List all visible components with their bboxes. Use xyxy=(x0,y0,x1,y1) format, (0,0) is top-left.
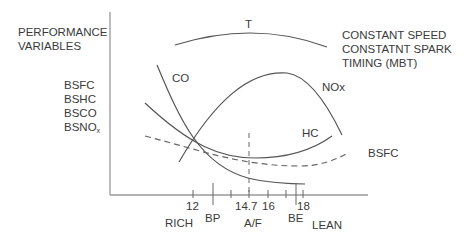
marker-be: BE xyxy=(288,211,303,225)
label-co: CO xyxy=(172,71,189,85)
y-var-bsnox: BSNOx xyxy=(64,120,100,138)
curve-bsfc xyxy=(145,136,346,166)
y-var-bshc: BSHC xyxy=(64,92,100,106)
label-hc: HC xyxy=(302,126,319,140)
conditions-title: CONSTANT SPEED CONSTATNT SPARK TIMING (M… xyxy=(342,28,452,70)
title-right-line-3: TIMING (MBT) xyxy=(342,56,452,70)
label-bsfc: BSFC xyxy=(368,146,399,160)
tick-16: 16 xyxy=(262,199,275,213)
performance-variables-title: PERFORMANCE VARIABLES xyxy=(18,25,107,53)
title-left-line-2: VARIABLES xyxy=(18,39,107,53)
label-rich: RICH xyxy=(165,216,193,230)
title-left-line-1: PERFORMANCE xyxy=(18,25,107,39)
curve-nox xyxy=(179,73,342,162)
y-var-bsnox-base: BSNO xyxy=(64,121,97,133)
y-var-bsnox-sub: x xyxy=(97,127,101,134)
label-nox: NOx xyxy=(322,80,345,94)
title-right-line-1: CONSTANT SPEED xyxy=(342,28,452,42)
tick-14-7: 14.7 xyxy=(235,199,257,213)
label-lean: LEAN xyxy=(312,218,342,232)
marker-bp: BP xyxy=(205,211,220,225)
y-var-bsfc: BSFC xyxy=(64,78,100,92)
curve-t xyxy=(175,33,327,47)
title-right-line-2: CONSTATNT SPARK xyxy=(342,42,452,56)
y-var-bsco: BSCO xyxy=(64,106,100,120)
y-variable-list: BSFC BSHC BSCO BSNOx xyxy=(64,78,100,138)
tick-12: 12 xyxy=(186,199,199,213)
label-t: T xyxy=(245,17,252,31)
label-af: A/F xyxy=(244,216,262,230)
